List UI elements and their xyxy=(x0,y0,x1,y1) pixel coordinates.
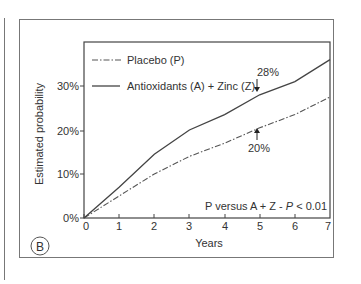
x-tick-label: 1 xyxy=(116,220,122,232)
x-axis-title: Years xyxy=(195,237,223,249)
x-tick-label: 2 xyxy=(151,220,157,232)
x-tick-label: 0 xyxy=(83,220,89,232)
x-tick-label: 4 xyxy=(222,220,228,232)
annotation-28-label: 28% xyxy=(257,66,279,78)
x-axis: 0 1 2 3 4 5 6 7 xyxy=(83,214,331,232)
y-tick-label: 30% xyxy=(57,80,79,92)
annotation-20-label: 20% xyxy=(248,142,270,154)
y-tick-label: 20% xyxy=(57,125,79,137)
y-axis: 0% 10% 20% 30% xyxy=(57,80,84,224)
y-axis-title: Estimated probability xyxy=(33,82,45,185)
legend-placebo-label: Placebo (P) xyxy=(127,54,184,66)
significance-note: P versus A + Z - P < 0.01 xyxy=(205,200,327,212)
panel-label-text: B xyxy=(36,240,44,254)
x-tick-label: 6 xyxy=(292,220,298,232)
plot-area xyxy=(84,42,330,218)
legend: Placebo (P) Antioxidants (A) + Zinc (Z) xyxy=(92,54,255,92)
x-tick-label: 3 xyxy=(186,220,192,232)
x-tick-label: 5 xyxy=(257,220,263,232)
y-tick-label: 10% xyxy=(57,168,79,180)
x-tick-label: 7 xyxy=(325,220,331,232)
y-tick-label: 0% xyxy=(63,212,79,224)
annotation-28: 28% xyxy=(254,66,279,92)
legend-treatment-label: Antioxidants (A) + Zinc (Z) xyxy=(127,80,255,92)
chart: 0% 10% 20% 30% 0 1 2 3 4 5 6 7 Years Est… xyxy=(0,0,361,284)
panel-label: B xyxy=(31,237,49,255)
